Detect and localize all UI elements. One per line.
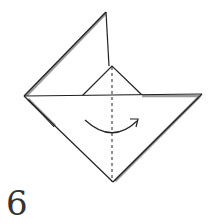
origami-diagram xyxy=(0,0,210,224)
step-number: 6 xyxy=(6,184,28,222)
main-triangle xyxy=(24,94,202,182)
